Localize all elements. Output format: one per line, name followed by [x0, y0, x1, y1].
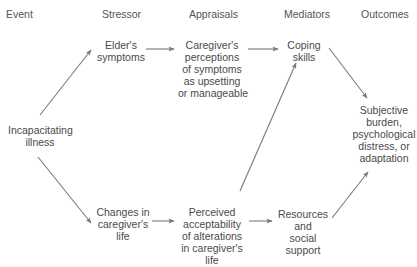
node-line: Resources: [276, 208, 330, 220]
arrow-acceptability-to-coping: [240, 63, 296, 191]
node-line: perceptions: [178, 51, 246, 63]
node-line: skills: [284, 51, 324, 63]
node-line: acceptability: [176, 218, 248, 230]
node-line: as upsetting: [178, 75, 246, 87]
node-resources-support: Resources and social support: [276, 208, 330, 256]
node-line: Elder's: [96, 39, 146, 51]
node-line: of alterations: [176, 230, 248, 242]
arrow-resources-to-outcomes: [332, 172, 368, 218]
node-line: psychological: [352, 128, 416, 140]
node-line: Incapacitating: [8, 124, 72, 136]
node-incapacitating-illness: Incapacitating illness: [8, 124, 72, 148]
node-line: support: [276, 244, 330, 256]
node-line: burden,: [352, 116, 416, 128]
node-line: Perceived: [176, 206, 248, 218]
node-line: in caregiver's: [176, 242, 248, 254]
arrow-illness-to-changes: [38, 157, 91, 223]
node-perceived-acceptability: Perceived acceptability of alterations i…: [176, 206, 248, 266]
node-outcomes: Subjective burden, psychological distres…: [352, 104, 416, 164]
node-line: Subjective: [352, 104, 416, 116]
arrow-illness-to-symptoms: [40, 50, 91, 115]
node-line: adaptation: [352, 152, 416, 164]
node-line: Coping: [284, 39, 324, 51]
node-line: Changes in: [94, 206, 152, 218]
node-line: or manageable: [178, 87, 246, 99]
node-line: caregiver's: [94, 218, 152, 230]
node-changes-in-life: Changes in caregiver's life: [94, 206, 152, 242]
node-line: symptoms: [96, 51, 146, 63]
node-line: life: [94, 230, 152, 242]
node-line: and: [276, 220, 330, 232]
node-caregiver-perceptions: Caregiver's perceptions of symptoms as u…: [178, 39, 246, 99]
node-coping-skills: Coping skills: [284, 39, 324, 63]
node-line: Caregiver's: [178, 39, 246, 51]
node-line: of symptoms: [178, 63, 246, 75]
node-line: illness: [8, 136, 72, 148]
node-elders-symptoms: Elder's symptoms: [96, 39, 146, 63]
node-line: distress, or: [352, 140, 416, 152]
arrow-coping-to-outcomes: [329, 48, 367, 98]
node-line: life: [176, 254, 248, 266]
node-line: social: [276, 232, 330, 244]
